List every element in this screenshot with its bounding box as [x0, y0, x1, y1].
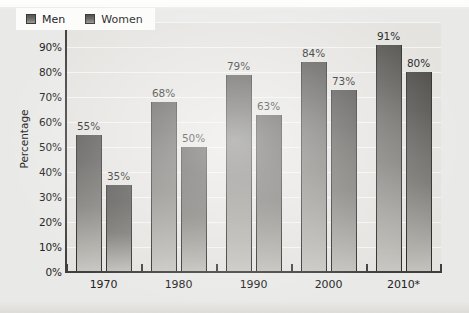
x-axis-tick — [141, 264, 143, 273]
chart-legend: Men Women — [16, 8, 155, 30]
x-axis-tick — [291, 264, 293, 273]
legend-swatch-women-icon — [85, 14, 95, 24]
y-axis-title: Percentage — [18, 84, 30, 194]
legend-swatch-men-icon — [26, 14, 36, 24]
y-tick-label: 50% — [4, 141, 62, 153]
x-tick-label-2010: 2010* — [369, 278, 439, 291]
y-tick-label: 0% — [4, 266, 62, 278]
y-tick-label: 10% — [4, 241, 62, 253]
legend-label-women: Women — [101, 13, 142, 26]
x-tick-label-2000: 2000 — [294, 278, 364, 291]
chart-figure: 55%35%68%50%79%63%84%73%91%80% 0%10%20%3… — [0, 0, 469, 313]
y-tick-label: 20% — [4, 216, 62, 228]
legend-entry-men: Men — [26, 13, 65, 26]
y-tick-label: 30% — [4, 191, 62, 203]
x-axis-tick-labels: 19701980199020002010* — [66, 0, 441, 313]
y-tick-label: 40% — [4, 166, 62, 178]
x-axis-tick — [366, 264, 368, 273]
y-tick-label: 60% — [4, 116, 62, 128]
x-axis-tick — [216, 264, 218, 273]
legend-entry-women: Women — [85, 13, 142, 26]
x-tick-label-1970: 1970 — [69, 278, 139, 291]
y-tick-label: 70% — [4, 91, 62, 103]
x-tick-label-1990: 1990 — [219, 278, 289, 291]
legend-label-men: Men — [42, 13, 65, 26]
y-tick-label: 80% — [4, 66, 62, 78]
x-tick-label-1980: 1980 — [144, 278, 214, 291]
y-tick-label: 90% — [4, 41, 62, 53]
y-axis-tick-labels: 0%10%20%30%40%50%60%70%80%90%100% — [0, 22, 62, 272]
x-axis-tick — [66, 264, 68, 273]
